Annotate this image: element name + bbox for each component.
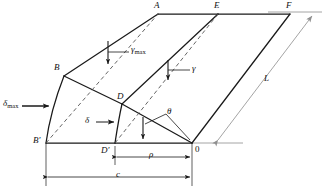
displacement-markers [22,106,114,122]
delta-label: δ [85,116,89,125]
delta-max-label: δmax [3,99,18,108]
vertex-label-e: E [214,1,220,10]
rho-dimension-label: ρ [149,150,153,159]
delta-max-subscript: max [7,102,18,109]
vertex-label-d-prime: D' [101,146,109,155]
bottom-dimensions [46,143,192,186]
reference-lines [192,12,322,143]
dashed-dprime-e [115,14,218,143]
shear-strain-markers [108,41,190,80]
arc-d-dprime [115,104,122,143]
gamma-max-subscript: max [135,48,146,55]
theta-leader-2 [166,114,190,140]
gamma-max-label: γmax [131,45,146,54]
torsion-deformation-figure: A E F B B' D D' 0 γmax γ δmax δ θ ρ c L [0,0,330,193]
length-dimension-label: L [264,74,269,83]
vertex-label-b: B [54,63,60,72]
arc-b-bprime [46,76,64,143]
c-dimension-label: c [116,170,120,179]
theta-label: θ [167,107,171,116]
vertex-label-origin: 0 [195,145,200,154]
vertex-label-a: A [154,1,160,10]
vertex-label-f: F [286,1,292,10]
vertex-label-b-prime: B' [33,136,40,145]
gamma-label: γ [192,64,196,73]
twist-angle-markers [143,114,190,140]
figure-canvas [0,0,330,193]
undeformed-generators [46,14,218,143]
gamma-max-symbol: γ [131,44,135,54]
vertex-label-d: D [117,92,124,101]
